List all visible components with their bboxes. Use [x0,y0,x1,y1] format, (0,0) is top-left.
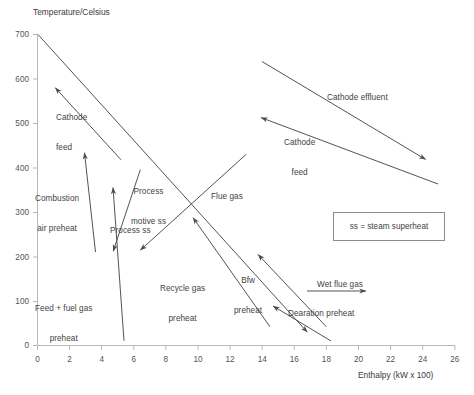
annotation-wet-flue-gas: Wet flue gas [317,280,363,290]
x-tick-label: 20 [349,355,369,364]
x-tick-label: 18 [316,355,336,364]
annotation-line: motive ss [131,217,166,227]
annotation-line: air preheat [35,224,79,234]
y-tick-label: 100 [5,297,29,306]
annotation-process-motive-ss: Process motive ss [131,166,166,248]
annotation-bfw-preheat: Bfw preheat [234,255,262,337]
x-tick-label: 4 [92,355,112,364]
y-tick-label: 400 [5,164,29,173]
annotation-cathode-feed-left: Cathode feed [56,92,87,174]
annotation-cathode-effluent: Cathode effluent [327,93,388,103]
annotation-line: Combustion [35,194,79,204]
x-tick-label: 22 [381,355,401,364]
annotation-line: Cathode [284,138,315,148]
annotation-line: Bfw [234,276,262,286]
y-tick-label: 600 [5,75,29,84]
y-tick-label: 200 [5,253,29,262]
x-tick-label: 14 [252,355,272,364]
annotation-line: preheat [35,334,92,344]
x-tick-label: 8 [156,355,176,364]
annotation-line: Recycle gas [160,284,205,294]
annotation-line: preheat [234,306,262,316]
annotation-line: Cathode [56,113,87,123]
x-tick-label: 12 [220,355,240,364]
annotation-recycle-gas-preheat: Recycle gas preheat [160,263,205,345]
x-tick-label: 16 [284,355,304,364]
y-tick-label: 300 [5,208,29,217]
chart-canvas: Temperature/Celsius Enthalpy (kW x 100) … [0,0,474,395]
y-tick-label: 0 [5,341,29,350]
arrow-feed-fuel-gas-preheat [113,188,124,341]
annotation-line: Process [131,187,166,197]
annotation-line: feed [284,168,315,178]
x-tick-label: 10 [188,355,208,364]
legend-note-text: ss = steam superheat [350,222,429,231]
y-tick-label: 700 [5,30,29,39]
x-tick-label: 6 [124,355,144,364]
annotation-line: feed [56,143,87,153]
annotation-line: preheat [160,314,205,324]
annotation-flue-gas: Flue gas [211,192,243,202]
x-axis-ticks [38,346,455,351]
x-tick-label: 24 [413,355,433,364]
annotation-feed-fuel-gas-preheat: Feed + fuel gas preheat [35,283,92,365]
y-tick-label: 500 [5,119,29,128]
x-tick-label: 26 [445,355,465,364]
annotation-combustion-air-preheat: Combustion air preheat [35,173,79,255]
y-axis-title: Temperature/Celsius [33,7,110,17]
annotation-dearation-preheat: Dearation preheat [288,309,354,319]
legend-note-box: ss = steam superheat [333,212,445,241]
annotation-cathode-feed-right: Cathode feed [284,117,315,199]
annotation-line: Feed + fuel gas [35,304,92,314]
x-axis-title: Enthalpy (kW x 100) [358,370,433,380]
